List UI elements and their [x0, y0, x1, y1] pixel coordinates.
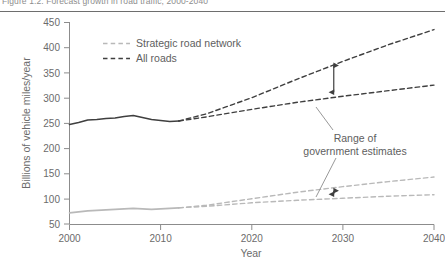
annotation-line-2: government estimates — [303, 145, 406, 157]
x-tick-label-2010: 2010 — [149, 233, 172, 244]
x-axis-title: Year — [240, 247, 262, 259]
data-series-layer — [70, 30, 435, 213]
x-tick-label-2020: 2020 — [241, 233, 264, 244]
y-tick-label-50: 50 — [49, 219, 61, 230]
series-strategic-road-network-forecast-low — [179, 195, 434, 208]
chart-canvas: 450 400 350 300 250 200 150 100 50 Billi… — [0, 0, 445, 261]
annotation-line-1: Range of — [334, 132, 377, 144]
series-strategic-road-network-historic — [70, 208, 179, 213]
series-all-roads-historic — [70, 115, 179, 124]
y-axis: 450 400 350 300 250 200 150 100 50 Billi… — [20, 17, 70, 230]
annotation-leader-line-upper — [316, 107, 333, 130]
y-tick-label-100: 100 — [43, 194, 60, 205]
annotation-range-of-government-estimates: Range of government estimates — [303, 107, 406, 197]
legend-label-strategic-road-network: Strategic road network — [136, 37, 242, 49]
y-tick-label-200: 200 — [43, 143, 60, 154]
y-tick-label-300: 300 — [43, 93, 60, 104]
series-all-roads-forecast-low — [179, 85, 434, 121]
series-strategic-road-network-forecast-high — [179, 177, 434, 208]
y-tick-label-350: 350 — [43, 68, 60, 79]
annotation-leader-line-lower — [316, 158, 336, 197]
legend-item-strategic-road-network[interactable]: Strategic road network — [103, 37, 242, 49]
legend-label-all-roads: All roads — [136, 52, 177, 64]
figure-root: Figure 1.2: Forecast growth in road traf… — [0, 0, 445, 261]
y-tick-label-250: 250 — [43, 118, 60, 129]
y-tick-label-150: 150 — [43, 168, 60, 179]
x-tick-label-2030: 2030 — [332, 233, 355, 244]
x-tick-label-2040: 2040 — [423, 233, 445, 244]
y-axis-title: Billions of vehicle miles/year — [20, 57, 32, 189]
legend-item-all-roads[interactable]: All roads — [103, 52, 177, 64]
y-tick-label-450: 450 — [43, 17, 60, 28]
y-tick-label-400: 400 — [43, 42, 60, 53]
chart-legend: Strategic road network All roads — [103, 37, 242, 64]
x-tick-label-2000: 2000 — [58, 233, 81, 244]
x-axis: 2000 2010 2020 2030 2040 Year — [58, 225, 445, 260]
